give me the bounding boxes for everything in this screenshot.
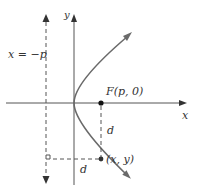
right-angle-marker	[46, 155, 50, 159]
parabola-diagram	[0, 0, 199, 192]
curve-point	[99, 157, 104, 162]
y-axis-label: y	[64, 10, 70, 20]
focus-point	[98, 100, 103, 105]
distance-focus-label: d	[107, 125, 114, 136]
directrix-label: x = −p	[8, 49, 47, 60]
directrix-arrow-top-icon	[43, 14, 50, 22]
directrix-arrow-bottom-icon	[43, 176, 50, 184]
point-label: (x, y)	[106, 154, 134, 165]
x-axis-label: x	[182, 110, 188, 121]
focus-label: F(p, 0)	[106, 86, 143, 97]
distance-directrix-label: d	[80, 164, 87, 175]
